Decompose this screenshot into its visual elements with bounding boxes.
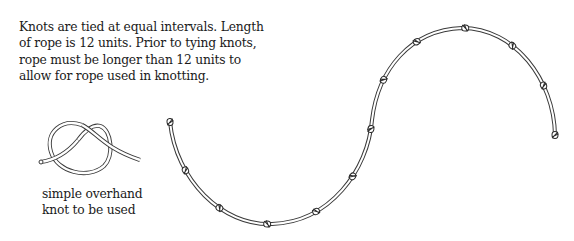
rope-knot <box>552 131 559 138</box>
rope-knot <box>462 24 469 31</box>
knot-label: simple overhand knot to be used <box>42 186 132 219</box>
rope-line <box>170 28 555 224</box>
knot-label-line: knot to be used <box>42 202 132 218</box>
rope-with-knots <box>167 24 559 227</box>
rope-knot <box>167 118 174 126</box>
rope-knot <box>367 125 375 133</box>
rope-knot <box>264 220 271 227</box>
overhand-knot-icon <box>39 123 140 173</box>
knot-label-line: simple overhand <box>42 186 132 202</box>
